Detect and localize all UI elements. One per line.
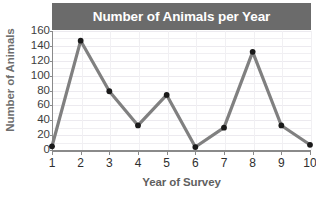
- chart-title: Number of Animals per Year: [93, 9, 270, 24]
- x-tick-label: 3: [106, 157, 113, 169]
- y-gridline: [53, 91, 311, 92]
- x-gridline: [254, 31, 255, 150]
- x-tick-label: 5: [163, 157, 170, 169]
- y-gridline-minor: [53, 143, 311, 144]
- x-tick-mark: [253, 151, 254, 155]
- y-gridline: [53, 105, 311, 106]
- x-tick-mark: [52, 151, 53, 155]
- y-tick-label: 20: [24, 129, 50, 141]
- y-gridline-minor: [53, 53, 311, 54]
- x-gridline: [196, 31, 197, 150]
- y-tick-label: 160: [24, 25, 50, 37]
- y-gridline: [53, 46, 311, 47]
- y-tick-label: 40: [24, 115, 50, 127]
- chart-title-banner: Number of Animals per Year: [52, 3, 311, 30]
- y-axis-ticks: 020406080100120140160: [20, 0, 50, 206]
- x-tick-label: 9: [278, 157, 285, 169]
- x-gridline: [82, 31, 83, 150]
- y-gridline-minor: [53, 38, 311, 39]
- x-gridline: [168, 31, 169, 150]
- x-tick-label: 8: [249, 157, 256, 169]
- y-gridline-minor: [53, 68, 311, 69]
- y-tick-label: 60: [24, 100, 50, 112]
- x-tick-label: 4: [135, 157, 142, 169]
- y-tick-label: 0: [24, 144, 50, 156]
- y-gridline-minor: [53, 83, 311, 84]
- line-chart: Number of Animals per Year Number of Ani…: [0, 0, 316, 206]
- y-gridline: [53, 135, 311, 136]
- x-tick-mark: [224, 151, 225, 155]
- y-tick-label: 120: [24, 55, 50, 67]
- y-gridline: [53, 31, 311, 32]
- x-tick-mark: [310, 151, 311, 155]
- x-tick-label: 6: [192, 157, 199, 169]
- y-gridline: [53, 76, 311, 77]
- x-tick-mark: [81, 151, 82, 155]
- x-tick-mark: [281, 151, 282, 155]
- x-tick-mark: [109, 151, 110, 155]
- x-tick-label: 2: [77, 157, 84, 169]
- x-axis-title: Year of Survey: [52, 176, 311, 188]
- x-gridline: [311, 31, 312, 150]
- x-gridline: [110, 31, 111, 150]
- x-gridline: [282, 31, 283, 150]
- y-tick-label: 80: [24, 85, 50, 97]
- plot-area: [52, 31, 312, 150]
- y-axis-title-label: Number of Animals: [4, 28, 16, 131]
- y-gridline: [53, 120, 311, 121]
- x-tick-label: 7: [221, 157, 228, 169]
- x-axis-line: [52, 150, 311, 152]
- x-gridline: [139, 31, 140, 150]
- x-gridline: [225, 31, 226, 150]
- x-tick-mark: [138, 151, 139, 155]
- y-gridline-minor: [53, 113, 311, 114]
- y-axis-title: Number of Animals: [0, 0, 20, 160]
- y-tick-label: 140: [24, 40, 50, 52]
- y-gridline: [53, 61, 311, 62]
- x-tick-label: 1: [49, 157, 56, 169]
- y-tick-label: 100: [24, 70, 50, 82]
- x-tick-label: 10: [303, 157, 316, 169]
- y-gridline-minor: [53, 98, 311, 99]
- x-tick-mark: [167, 151, 168, 155]
- y-gridline-minor: [53, 128, 311, 129]
- x-tick-mark: [195, 151, 196, 155]
